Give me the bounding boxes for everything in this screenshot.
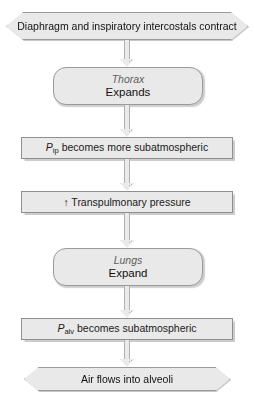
node-label-text: becomes subatmospheric xyxy=(74,322,197,334)
node-lungs-expand: Lungs Expand xyxy=(53,248,203,286)
node-air-flows-into-alveoli: Air flows into alveoli xyxy=(24,367,230,391)
pressure-subscript: alv xyxy=(64,326,74,335)
connector-n1-n2 xyxy=(120,40,134,67)
connector-shaft xyxy=(124,105,130,131)
node-pip-subatmospheric: Pip becomes more subatmospheric xyxy=(21,137,233,159)
connector-shaft xyxy=(124,340,130,361)
node-organ-label: Lungs xyxy=(114,254,143,266)
connector-n5-n6 xyxy=(120,286,134,318)
arrowhead-down-icon xyxy=(120,240,134,248)
arrowhead-down-icon xyxy=(120,359,134,367)
connector-n3-n4 xyxy=(120,159,134,191)
node-transpulmonary-pressure: ↑ Transpulmonary pressure xyxy=(21,191,233,213)
node-label: Air flows into alveoli xyxy=(81,373,173,385)
node-organ-label: Thorax xyxy=(112,73,145,85)
node-label: ↑ Transpulmonary pressure xyxy=(63,196,190,208)
flowchart-canvas: Diaphragm and inspiratory intercostals c… xyxy=(0,0,254,400)
connector-shaft xyxy=(124,40,130,61)
node-label: Palv becomes subatmospheric xyxy=(57,322,196,336)
hexagon-shape: Air flows into alveoli xyxy=(24,367,230,391)
arrowhead-down-icon xyxy=(120,129,134,137)
node-thorax-expands: Thorax Expands xyxy=(53,67,203,105)
arrowhead-down-icon xyxy=(120,183,134,191)
node-action-label: Expands xyxy=(106,86,151,99)
connector-shaft xyxy=(124,213,130,242)
node-action-label: Expand xyxy=(108,267,147,280)
node-label: Diaphragm and inspiratory intercostals c… xyxy=(17,20,236,32)
arrowhead-down-icon xyxy=(120,59,134,67)
node-palv-subatmospheric: Palv becomes subatmospheric xyxy=(21,318,233,340)
connector-n4-n5 xyxy=(120,213,134,248)
node-label-text: becomes more subatmospheric xyxy=(59,141,208,153)
pressure-symbol: P xyxy=(46,141,53,153)
connector-n2-n3 xyxy=(120,105,134,137)
connector-shaft xyxy=(124,159,130,185)
hexagon-shape: Diaphragm and inspiratory intercostals c… xyxy=(6,12,248,40)
connector-shaft xyxy=(124,286,130,312)
node-label: Pip becomes more subatmospheric xyxy=(46,141,208,155)
arrowhead-down-icon xyxy=(120,310,134,318)
node-label-text: Transpulmonary pressure xyxy=(69,196,191,208)
connector-n6-n7 xyxy=(120,340,134,367)
node-diaphragm-contract: Diaphragm and inspiratory intercostals c… xyxy=(6,12,248,40)
